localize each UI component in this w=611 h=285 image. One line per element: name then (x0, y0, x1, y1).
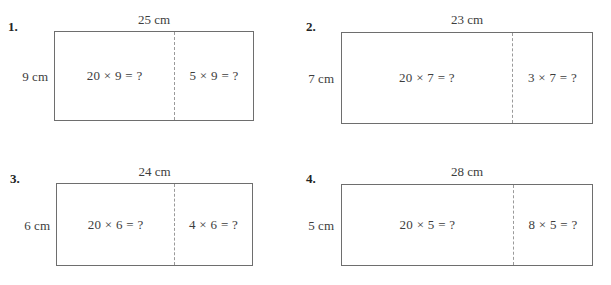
area-model-rectangle: 20 × 5 = ? 8 × 5 = ? (341, 184, 593, 266)
area-model-rectangle: 20 × 7 = ? 3 × 7 = ? (341, 32, 593, 124)
area-cell-left: 20 × 7 = ? (342, 33, 512, 123)
area-cell-right: 8 × 5 = ? (513, 185, 592, 265)
area-cell-right: 5 × 9 = ? (174, 32, 253, 120)
top-dimension-label: 23 cm (341, 13, 593, 26)
area-model-rectangle: 20 × 6 = ? 4 × 6 = ? (56, 183, 253, 266)
side-dimension-label: 5 cm (288, 219, 334, 232)
side-dimension-label: 6 cm (4, 219, 50, 232)
problem-number: 1. (8, 20, 18, 33)
top-dimension-label: 25 cm (54, 13, 254, 26)
area-cell-right: 4 × 6 = ? (174, 184, 252, 265)
problem-number: 2. (306, 20, 316, 33)
problem-number: 4. (306, 172, 316, 185)
area-cell-left: 20 × 5 = ? (342, 185, 513, 265)
top-dimension-label: 24 cm (56, 165, 253, 178)
side-dimension-label: 9 cm (0, 70, 48, 83)
area-cell-right: 3 × 7 = ? (512, 33, 592, 123)
area-cell-left: 20 × 9 = ? (55, 32, 174, 120)
side-dimension-label: 7 cm (288, 72, 334, 85)
problem-number: 3. (10, 172, 20, 185)
area-model-rectangle: 20 × 9 = ? 5 × 9 = ? (54, 31, 254, 121)
area-cell-left: 20 × 6 = ? (57, 184, 174, 265)
top-dimension-label: 28 cm (341, 165, 593, 178)
